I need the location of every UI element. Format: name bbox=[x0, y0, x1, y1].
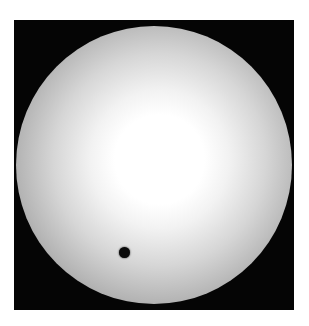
sun-disk bbox=[16, 26, 292, 304]
transiting-planet bbox=[119, 247, 130, 258]
photo-frame bbox=[14, 20, 294, 310]
caption-cutoff bbox=[0, 318, 309, 326]
